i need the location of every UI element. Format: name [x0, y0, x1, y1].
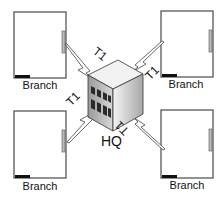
branch-label-bottom-right: Branch [161, 180, 213, 191]
branch-label-bottom-left: Branch [14, 181, 66, 192]
wan-diagram: Branch Branch Branch Branch T1 T1 T1 T1 … [0, 0, 223, 198]
hq-building-icon [88, 60, 143, 131]
status-bar-icon [162, 175, 177, 178]
status-bar-icon [15, 175, 30, 178]
status-bar-icon [162, 74, 177, 77]
branch-label-top-left: Branch [14, 80, 66, 91]
branch-label-top-right: Branch [160, 79, 212, 90]
lightning-link-bottom-right-icon [133, 117, 165, 150]
lightning-link-top-left-icon [65, 44, 91, 78]
branch-top-left [14, 12, 66, 78]
diagram-canvas [0, 0, 223, 198]
hq-label: HQ [101, 134, 122, 148]
branch-top-right [161, 11, 213, 77]
status-bar-icon [15, 75, 30, 78]
door-handle-icon [209, 129, 212, 151]
branch-bottom-left [14, 111, 66, 178]
door-handle-icon [62, 31, 65, 53]
door-handle-icon [62, 130, 65, 152]
branch-bottom-right [161, 110, 213, 178]
door-handle-icon [209, 30, 212, 52]
